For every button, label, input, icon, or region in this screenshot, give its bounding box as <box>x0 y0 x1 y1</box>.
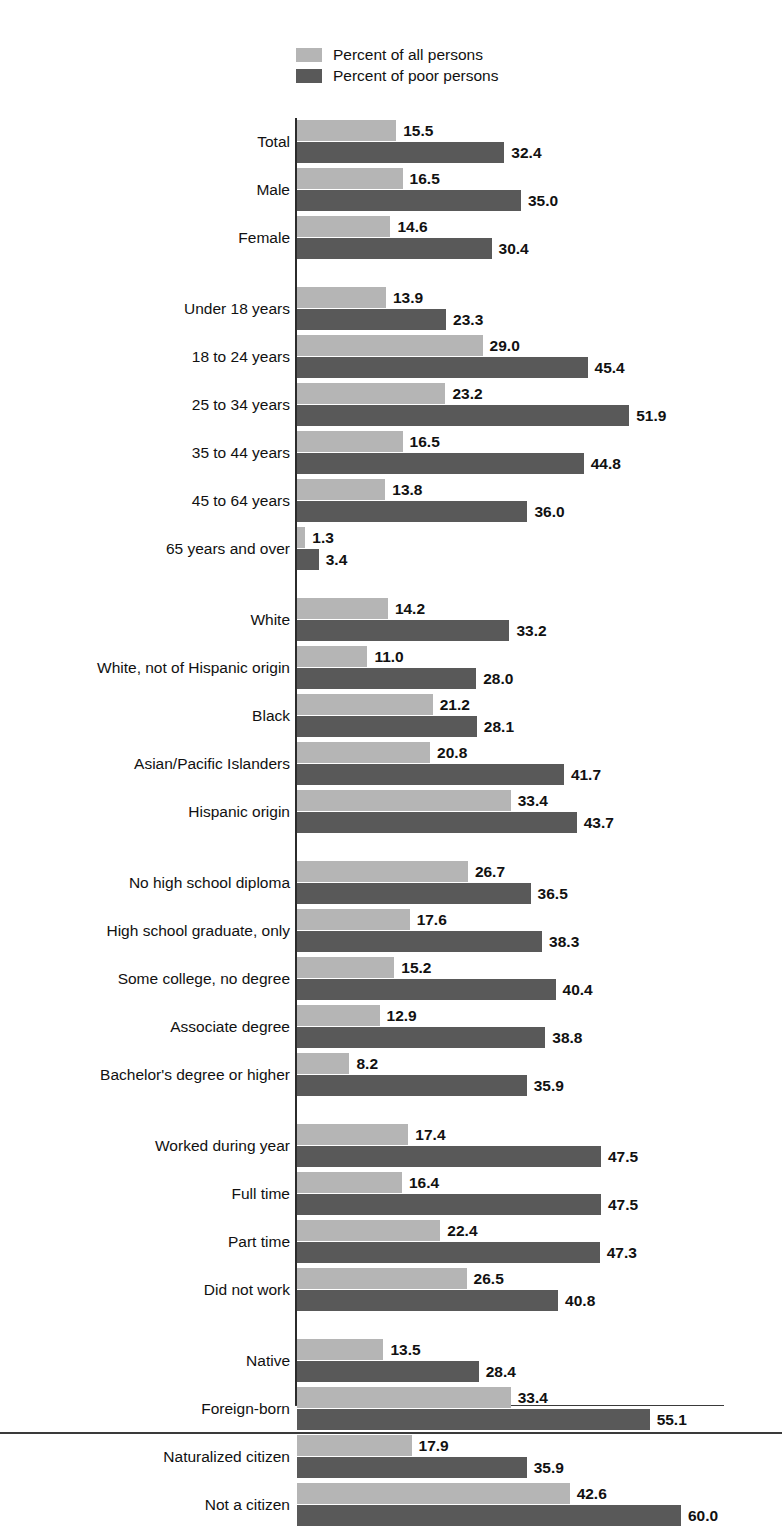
category-label: Native <box>246 1337 290 1385</box>
bar-poor <box>297 620 509 641</box>
bar-all <box>297 527 305 548</box>
bar-poor <box>297 1027 545 1048</box>
bar-all <box>297 1435 412 1456</box>
bar-poor <box>297 190 521 211</box>
bar-all <box>297 1124 408 1145</box>
bar-row-all: 14.6 <box>297 216 428 237</box>
bar-value-label: 55.1 <box>657 1412 687 1428</box>
category-label: 45 to 64 years <box>192 477 290 525</box>
bar-row-poor: 51.9 <box>297 405 666 426</box>
bar-row-poor: 28.4 <box>297 1361 516 1382</box>
bar-row-all: 17.6 <box>297 909 447 930</box>
bar-value-label: 40.8 <box>565 1293 595 1309</box>
bar-row-poor: 40.4 <box>297 979 593 1000</box>
category-label: Associate degree <box>170 1003 290 1051</box>
bar-all <box>297 120 396 141</box>
bar-row-all: 42.6 <box>297 1483 607 1504</box>
chart-category-row: Under 18 years13.923.3 <box>0 285 782 333</box>
bar-row-all: 15.2 <box>297 957 431 978</box>
bar-poor <box>297 1194 601 1215</box>
chart-category-row: Female14.630.4 <box>0 214 782 262</box>
bar-row-all: 33.4 <box>297 1387 548 1408</box>
bar-value-label: 47.5 <box>608 1197 638 1213</box>
bar-all <box>297 598 388 619</box>
category-group-education: No high school diploma26.736.5High schoo… <box>0 859 782 1099</box>
bar-row-all: 23.2 <box>297 383 483 404</box>
category-label: Foreign-born <box>201 1385 290 1433</box>
bar-all <box>297 1339 383 1360</box>
bar-value-label: 16.5 <box>410 171 440 187</box>
bar-value-label: 15.2 <box>401 960 431 976</box>
bar-all <box>297 168 403 189</box>
bar-row-all: 16.4 <box>297 1172 439 1193</box>
chart-legend: Percent of all personsPercent of poor pe… <box>296 44 498 86</box>
category-label: Female <box>238 214 290 262</box>
category-label: Not a citizen <box>205 1481 290 1529</box>
bar-all <box>297 287 386 308</box>
bar-row-poor: 32.4 <box>297 142 542 163</box>
bar-all <box>297 790 511 811</box>
bar-row-poor: 47.5 <box>297 1146 638 1167</box>
bar-row-all: 29.0 <box>297 335 520 356</box>
bar-value-label: 40.4 <box>563 982 593 998</box>
category-label: Total <box>257 118 290 166</box>
bar-value-label: 14.2 <box>395 601 425 617</box>
bar-row-all: 13.9 <box>297 287 423 308</box>
chart-category-row: Bachelor's degree or higher8.235.9 <box>0 1051 782 1099</box>
chart-category-row: 25 to 34 years23.251.9 <box>0 381 782 429</box>
bar-value-label: 36.5 <box>538 886 568 902</box>
bar-value-label: 43.7 <box>584 815 614 831</box>
bar-value-label: 26.5 <box>474 1271 504 1287</box>
chart-category-row: Asian/Pacific Islanders20.841.7 <box>0 740 782 788</box>
legend-item: Percent of all persons <box>296 44 498 65</box>
bar-value-label: 21.2 <box>440 697 470 713</box>
bar-value-label: 28.0 <box>483 671 513 687</box>
chart-category-row: Hispanic origin33.443.7 <box>0 788 782 836</box>
category-label: Did not work <box>204 1266 290 1314</box>
chart-category-row: Worked during year17.447.5 <box>0 1122 782 1170</box>
bar-value-label: 11.0 <box>374 649 403 665</box>
category-label: Hispanic origin <box>188 788 290 836</box>
bar-value-label: 22.4 <box>447 1223 477 1239</box>
bar-value-label: 26.7 <box>475 864 505 880</box>
bar-row-poor: 38.3 <box>297 931 579 952</box>
bar-poor <box>297 883 531 904</box>
bar-all <box>297 957 394 978</box>
bar-row-poor: 28.1 <box>297 716 514 737</box>
bar-row-poor: 60.0 <box>297 1505 718 1526</box>
bar-poor <box>297 716 477 737</box>
bar-value-label: 1.3 <box>312 530 334 546</box>
bar-value-label: 29.0 <box>490 338 520 354</box>
bar-row-all: 26.5 <box>297 1268 504 1289</box>
bar-value-label: 44.8 <box>591 456 621 472</box>
bar-value-label: 17.6 <box>417 912 447 928</box>
bar-value-label: 17.4 <box>415 1127 445 1143</box>
bar-all <box>297 335 483 356</box>
bar-all <box>297 383 445 404</box>
bar-value-label: 33.4 <box>518 1390 548 1406</box>
legend-swatch-all <box>296 48 322 62</box>
bar-poor <box>297 309 446 330</box>
bar-row-all: 13.5 <box>297 1339 421 1360</box>
category-label: White, not of Hispanic origin <box>97 644 290 692</box>
chart-category-row: 45 to 64 years13.836.0 <box>0 477 782 525</box>
bar-poor <box>297 1505 681 1526</box>
bar-poor <box>297 1409 650 1430</box>
bar-value-label: 17.9 <box>419 1438 449 1454</box>
bar-all <box>297 1053 349 1074</box>
legend-item-label: Percent of all persons <box>333 47 483 63</box>
category-group-work-experience: Worked during year17.447.5Full time16.44… <box>0 1122 782 1314</box>
bar-all <box>297 909 410 930</box>
bar-value-label: 20.8 <box>437 745 467 761</box>
bar-value-label: 35.9 <box>534 1078 564 1094</box>
chart-category-row: Native13.528.4 <box>0 1337 782 1385</box>
bar-value-label: 13.5 <box>390 1342 420 1358</box>
bar-row-poor: 47.3 <box>297 1242 637 1263</box>
category-label: White <box>250 596 290 644</box>
category-label: Worked during year <box>155 1122 290 1170</box>
bar-value-label: 13.9 <box>393 290 423 306</box>
category-label: Part time <box>228 1218 290 1266</box>
category-label: Under 18 years <box>184 285 290 333</box>
bar-poor <box>297 1457 527 1478</box>
